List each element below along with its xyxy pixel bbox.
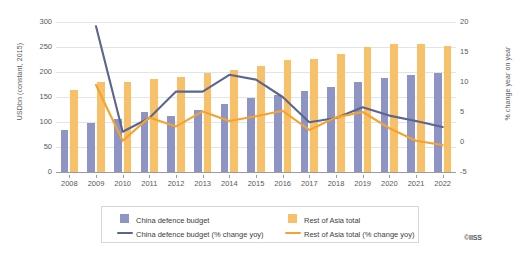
line-series xyxy=(96,26,443,132)
x-axis-tick xyxy=(69,175,70,178)
y-axis-right-tick-label: -5 xyxy=(460,168,490,176)
x-axis-tick xyxy=(229,175,230,178)
chart-figure: USDbn (constant, 2015) % change year on … xyxy=(0,0,520,261)
legend-item-label: China defence budget (% change yoy) xyxy=(136,231,264,239)
x-axis-tick xyxy=(389,175,390,178)
x-axis-label: 2011 xyxy=(135,179,163,190)
x-axis-label: 2019 xyxy=(349,179,377,190)
copyright-credit: ©IISS xyxy=(464,234,482,241)
x-axis-label: 2008 xyxy=(55,179,83,190)
x-axis-label: 2021 xyxy=(402,179,430,190)
y-axis-left-ticks: 050100150200250300 xyxy=(18,22,52,172)
x-axis-label: 2013 xyxy=(189,179,217,190)
y-axis-right-tick-label: 10 xyxy=(460,78,490,86)
x-axis-tick xyxy=(416,175,417,178)
x-axis-label: 2022 xyxy=(429,179,457,190)
x-axis-label: 2018 xyxy=(322,179,350,190)
y-axis-left-tick-label: 100 xyxy=(22,118,52,126)
x-axis-tick xyxy=(443,175,444,178)
y-axis-right-tick-label: 20 xyxy=(460,18,490,26)
y-axis-right-title: % change year on year xyxy=(504,29,511,139)
x-axis-tick xyxy=(336,175,337,178)
y-axis-left-tick-label: 0 xyxy=(22,168,52,176)
y-axis-right-tick-label: 15 xyxy=(460,48,490,56)
x-axis-tick xyxy=(123,175,124,178)
y-axis-left-tick-label: 150 xyxy=(22,93,52,101)
plot-area xyxy=(56,22,456,172)
chart-legend: China defence budgetRest of Asia totalCh… xyxy=(101,206,419,243)
legend-line-marker xyxy=(285,232,301,234)
legend-item-label: China defence budget xyxy=(136,217,209,225)
y-axis-right-ticks: -505101520 xyxy=(460,22,490,172)
x-axis-tick xyxy=(256,175,257,178)
y-axis-right-tick-label: 5 xyxy=(460,108,490,116)
y-axis-left-tick-label: 200 xyxy=(22,68,52,76)
legend-swatch xyxy=(120,214,129,223)
lines-layer xyxy=(56,22,456,172)
x-axis-line xyxy=(56,172,456,173)
x-axis-tick xyxy=(176,175,177,178)
x-axis-label: 2010 xyxy=(109,179,137,190)
x-axis-label: 2012 xyxy=(162,179,190,190)
x-axis-labels: 2008200920102011201220132014201520162017… xyxy=(56,175,456,189)
x-axis-tick xyxy=(363,175,364,178)
x-axis-tick xyxy=(203,175,204,178)
x-axis-label: 2017 xyxy=(295,179,323,190)
x-axis-label: 2020 xyxy=(375,179,403,190)
legend-item-label: Rest of Asia total xyxy=(304,217,360,225)
y-axis-right-tick-label: 0 xyxy=(460,138,490,146)
legend-line-marker xyxy=(117,232,133,234)
x-axis-label: 2009 xyxy=(82,179,110,190)
y-axis-left-tick-label: 50 xyxy=(22,143,52,151)
y-axis-left-tick-label: 250 xyxy=(22,43,52,51)
x-axis-label: 2014 xyxy=(215,179,243,190)
x-axis-tick xyxy=(149,175,150,178)
x-axis-tick xyxy=(309,175,310,178)
x-axis-tick xyxy=(283,175,284,178)
y-axis-left-tick-label: 300 xyxy=(22,18,52,26)
x-axis-tick xyxy=(96,175,97,178)
x-axis-label: 2016 xyxy=(269,179,297,190)
x-axis-label: 2015 xyxy=(242,179,270,190)
legend-swatch xyxy=(288,214,297,223)
legend-item-label: Rest of Asia total (% change yoy) xyxy=(304,231,414,239)
